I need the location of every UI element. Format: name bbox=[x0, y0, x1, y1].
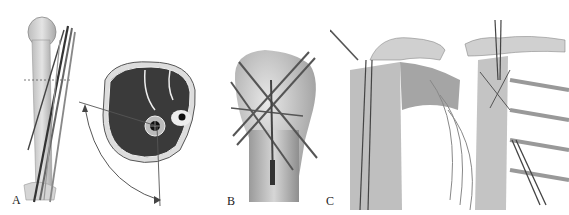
panel-label-c: C bbox=[326, 194, 334, 209]
panel-c-shoulder: C bbox=[330, 0, 569, 215]
panel-b-proximal-humerus: B bbox=[225, 0, 325, 215]
panel-label-a: A bbox=[12, 193, 21, 208]
arm-cross-section-illustration bbox=[75, 0, 205, 215]
shoulder-anatomy-illustration bbox=[330, 0, 569, 215]
panel-a-cross-section bbox=[75, 0, 205, 215]
panel-label-b: B bbox=[227, 194, 235, 209]
proximal-humerus-kwires-illustration bbox=[225, 0, 325, 215]
